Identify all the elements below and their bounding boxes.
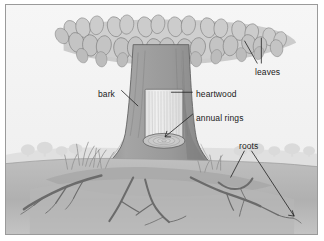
tree-diagram-illustration	[6, 5, 317, 234]
stump-cross-section	[143, 133, 185, 148]
label-roots: roots	[239, 141, 258, 151]
label-leaves: leaves	[255, 67, 280, 77]
ground-layer	[6, 158, 317, 234]
label-heartwood: heartwood	[196, 89, 237, 99]
tree-anatomy-figure: leaves bark heartwood annual rings roots	[0, 0, 324, 241]
label-bark: bark	[98, 89, 115, 99]
cutaway-window	[143, 89, 185, 148]
label-annual-rings: annual rings	[196, 113, 244, 123]
figure-frame: leaves bark heartwood annual rings roots	[5, 4, 318, 235]
